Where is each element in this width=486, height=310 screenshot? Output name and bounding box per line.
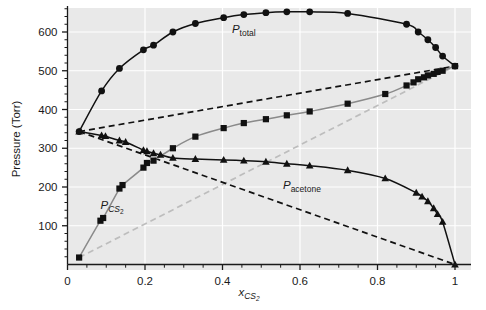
P_total-marker — [192, 20, 199, 27]
P_total-marker — [116, 65, 123, 72]
x-tick-label: 0.2 — [137, 275, 153, 287]
P_CS2-marker — [263, 116, 269, 122]
y-tick-label: 300 — [38, 142, 57, 154]
P_CS2-marker — [307, 108, 313, 114]
P_total-marker — [424, 36, 431, 43]
x-axis-title: xCS2 — [237, 286, 260, 302]
P_CS2-marker — [119, 182, 125, 188]
P_CS2-marker — [345, 101, 351, 107]
P_total-marker — [403, 21, 410, 28]
plot-area-background — [67, 8, 471, 270]
y-tick-label: 200 — [38, 181, 57, 193]
P_CS2-marker — [76, 254, 82, 260]
P_total-marker — [306, 8, 313, 15]
y-tick-label: 500 — [38, 65, 57, 77]
P_CS2-marker — [241, 120, 247, 126]
P_total-marker — [439, 53, 446, 60]
P_total-marker — [415, 29, 422, 36]
x-tick-label: 0.8 — [370, 275, 386, 287]
P_CS2-marker — [452, 63, 458, 69]
P_total-marker — [140, 46, 147, 53]
P_CS2-marker — [100, 215, 106, 221]
x-tick-label: 1 — [452, 275, 458, 287]
P_total-marker — [263, 9, 270, 16]
x-tick-label: 0.4 — [215, 275, 232, 287]
y-axis-title: Pressure (Torr) — [10, 100, 22, 177]
P_CS2-marker — [440, 68, 446, 74]
P_total-marker — [150, 42, 157, 49]
y-tick-label: 400 — [38, 104, 57, 116]
P_total-marker — [220, 14, 227, 21]
P_CS2-marker — [403, 82, 409, 88]
P_total-marker — [98, 88, 105, 95]
x-tick-label: 0 — [64, 275, 70, 287]
plot-background-group — [67, 8, 471, 270]
P_total-marker — [170, 29, 177, 36]
P_CS2-marker — [425, 72, 431, 78]
P_CS2-marker — [221, 125, 227, 131]
P_total-marker — [283, 8, 290, 15]
P_CS2-marker — [415, 76, 421, 82]
P_CS2-marker — [150, 158, 156, 164]
P_CS2-marker — [192, 134, 198, 140]
P_CS2-marker — [170, 145, 176, 151]
figure-container: 10020030040050060000.20.40.60.81 PtotalP… — [0, 0, 486, 310]
P_CS2-marker — [144, 160, 150, 166]
vapor-pressure-chart: 10020030040050060000.20.40.60.81 PtotalP… — [0, 0, 486, 310]
x-tick-label: 0.6 — [292, 275, 308, 287]
P_CS2-marker — [382, 91, 388, 97]
y-tick-label: 100 — [38, 220, 57, 232]
P_total-marker — [432, 44, 439, 51]
P_CS2-marker — [284, 112, 290, 118]
P_total-marker — [240, 11, 247, 18]
P_total-marker — [344, 10, 351, 17]
y-tick-label: 600 — [38, 26, 57, 38]
